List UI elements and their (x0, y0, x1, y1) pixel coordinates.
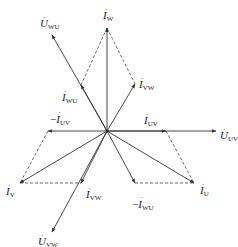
vector-i-vw-upper (107, 84, 135, 131)
vector-i-wu (81, 85, 107, 131)
vector-i-u (107, 131, 194, 183)
phasor-diagram (0, 0, 238, 247)
label-i-w: ·IW (103, 10, 113, 23)
dashed-neg-iuv-iv (20, 131, 48, 183)
dashed-iuv-iu (166, 131, 194, 183)
label-u-wu: ·UWU (40, 18, 60, 31)
label-u-vw: ·UVW (38, 236, 58, 247)
vector-neg-i-wu (107, 131, 135, 183)
label-i-v: ·IV (6, 186, 15, 199)
label-i-u: ·IU (200, 185, 209, 198)
label-i-vw-lower: ·IVW (86, 189, 101, 202)
label-i-vw-upper: ·IVW (139, 79, 154, 92)
phasor-vectors (20, 28, 216, 232)
vector-u-vw (52, 131, 107, 232)
dashed-iw-iwu (81, 28, 107, 85)
label-neg-i-wu: −·IWU (132, 199, 154, 212)
label-neg-i-uv: −·IUV (50, 114, 70, 127)
label-i-wu: ·IWU (62, 92, 77, 105)
label-u-uv: ·UUV (220, 130, 238, 143)
dashed-iw-ivw (107, 28, 135, 84)
label-i-uv: ·IUV (144, 115, 158, 128)
origin-point (106, 130, 108, 132)
